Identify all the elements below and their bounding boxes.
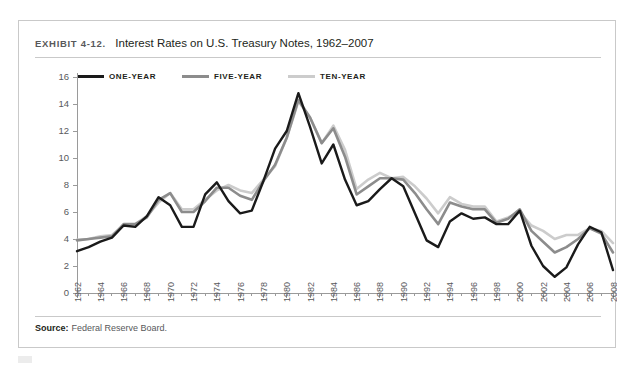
- x-tick-label: 2008: [609, 282, 618, 302]
- x-tick-label: 1972: [189, 282, 199, 302]
- y-tick-label: 2: [64, 260, 69, 271]
- x-tick-label: 1988: [375, 282, 385, 302]
- chart-plot-area: 0246810121416 19621964196619681970197219…: [19, 67, 617, 315]
- x-tick-label: 1998: [492, 282, 502, 302]
- x-tick-label: 1974: [212, 282, 222, 302]
- x-tick-label: 1990: [399, 282, 409, 302]
- x-tick-label: 1980: [282, 282, 292, 302]
- x-tick-label: 1962: [73, 282, 83, 302]
- y-tick-label: 0: [64, 287, 69, 298]
- x-tick-label: 1970: [166, 282, 176, 302]
- source-text: Federal Reserve Board.: [72, 323, 168, 333]
- x-tick-label: 1986: [352, 282, 362, 302]
- series-line-ten-year: [77, 101, 613, 243]
- x-tick-label: 1968: [142, 282, 152, 302]
- x-tick-label: 1994: [445, 282, 455, 302]
- footer-divider: [35, 316, 601, 317]
- page-margin-mark: [18, 356, 32, 363]
- y-tick-label: 6: [64, 206, 69, 217]
- x-tick-label: 1996: [469, 282, 479, 302]
- x-tick-label: 2006: [585, 282, 595, 302]
- y-tick-label: 14: [58, 98, 69, 109]
- line-chart-svg: 0246810121416 19621964196619681970197219…: [19, 67, 617, 315]
- y-tick-label: 12: [58, 125, 69, 136]
- series-lines: [77, 93, 613, 277]
- source-label: Source:: [35, 323, 69, 333]
- x-tick-label: 2004: [562, 282, 572, 302]
- source-note: Source:Federal Reserve Board.: [35, 323, 167, 333]
- x-tick-label: 1984: [329, 282, 339, 302]
- y-tick-label: 16: [58, 71, 69, 82]
- y-tick-label: 10: [58, 152, 69, 163]
- x-tick-label: 2002: [539, 282, 549, 302]
- y-tick-label: 8: [64, 179, 69, 190]
- x-tick-label: 1976: [236, 282, 246, 302]
- exhibit-header: EXHIBIT 4-12. Interest Rates on U.S. Tre…: [35, 33, 601, 59]
- exhibit-label: EXHIBIT 4-12.: [35, 38, 106, 49]
- x-tick-label: 1982: [306, 282, 316, 302]
- x-tick-label: 1966: [119, 282, 129, 302]
- series-line-one-year: [77, 93, 613, 277]
- x-tick-label: 1964: [96, 282, 106, 302]
- y-tick-label: 4: [64, 233, 69, 244]
- x-tick-label: 2000: [515, 282, 525, 302]
- header-divider: [35, 57, 601, 58]
- y-axis: 0246810121416: [58, 71, 77, 298]
- x-axis: 1962196419661968197019721974197619781980…: [73, 282, 618, 302]
- x-tick-label: 1978: [259, 282, 269, 302]
- exhibit-title: Interest Rates on U.S. Treasury Notes, 1…: [115, 37, 373, 49]
- exhibit-card: EXHIBIT 4-12. Interest Rates on U.S. Tre…: [18, 20, 616, 348]
- x-tick-label: 1992: [422, 282, 432, 302]
